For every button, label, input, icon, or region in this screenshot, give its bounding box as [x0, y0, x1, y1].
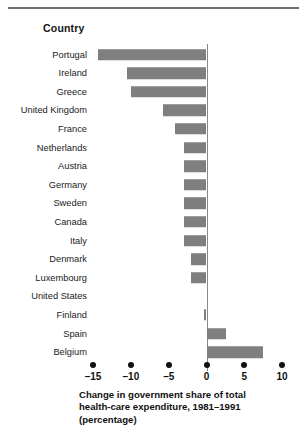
axis-tick-dot [279, 362, 285, 368]
bar-row: Germany [0, 176, 306, 193]
bar-row: Denmark [0, 251, 306, 268]
category-label: France [58, 124, 87, 134]
category-label: Austria [58, 161, 87, 171]
bar-row: Netherlands [0, 139, 306, 156]
bar-row: Austria [0, 158, 306, 175]
bar [191, 253, 206, 265]
category-label: Finland [57, 310, 88, 320]
caption-line-3: (percentage) [79, 414, 301, 426]
caption-line-1: Change in government share of total [79, 389, 301, 401]
bar-row: Greece [0, 83, 306, 100]
bar-row: Ireland [0, 65, 306, 82]
category-label: Greece [57, 87, 88, 97]
category-label: Portugal [52, 50, 87, 60]
axis-tick-label: –10 [123, 371, 140, 382]
bar [175, 123, 207, 135]
bar-row: United States [0, 288, 306, 305]
bar [184, 235, 207, 247]
axis-tick-label: 0 [204, 371, 210, 382]
axis-tick-label: –5 [163, 371, 174, 382]
axis-tick-dot [90, 362, 96, 368]
bar [191, 272, 206, 284]
axis-tick-label: –15 [85, 371, 102, 382]
bar [207, 328, 227, 340]
axis-tick-dot [204, 362, 210, 368]
bar-row: Sweden [0, 195, 306, 212]
bar-chart: Country PortugalIrelandGreeceUnited King… [0, 0, 306, 434]
axis-caption: Change in government share of total heal… [79, 389, 301, 426]
caption-line-2: health-care expenditure, 1981–1991 [79, 401, 301, 413]
category-label: Belgium [53, 347, 87, 357]
bar-row: Portugal [0, 46, 306, 63]
axis-tick-dot [166, 362, 172, 368]
bar [184, 216, 207, 228]
bar [184, 198, 207, 210]
bar-row: Italy [0, 232, 306, 249]
category-label: Germany [49, 180, 87, 190]
category-label: Netherlands [37, 143, 87, 153]
bar [127, 67, 206, 79]
axis-tick-dot [128, 362, 134, 368]
bar [184, 142, 207, 154]
country-column-header: Country [43, 22, 85, 34]
bar-row: Belgium [0, 344, 306, 361]
bar-row: Luxembourg [0, 269, 306, 286]
category-label: Spain [63, 329, 87, 339]
bar [98, 49, 206, 61]
category-label: Canada [54, 217, 87, 227]
bar [184, 160, 207, 172]
bar [131, 86, 207, 98]
bar-row: United Kingdom [0, 102, 306, 119]
axis-tick-dot [241, 362, 247, 368]
x-axis: –15–10–50510 [0, 362, 306, 388]
category-label: Ireland [59, 68, 87, 78]
category-label: Luxembourg [35, 273, 87, 283]
bar-row: Spain [0, 325, 306, 342]
axis-tick-label: 5 [242, 371, 248, 382]
axis-tick-label: 10 [277, 371, 288, 382]
bar [207, 346, 264, 358]
bar [204, 309, 206, 321]
bar [184, 179, 207, 191]
bar-row: Canada [0, 213, 306, 230]
category-label: Italy [70, 236, 87, 246]
category-label: Denmark [49, 254, 87, 264]
category-label: United States [31, 291, 87, 301]
category-label: Sweden [53, 198, 87, 208]
bar-row: Finland [0, 306, 306, 323]
bar [163, 105, 206, 117]
bar-row: France [0, 120, 306, 137]
category-label: United Kingdom [21, 105, 87, 115]
